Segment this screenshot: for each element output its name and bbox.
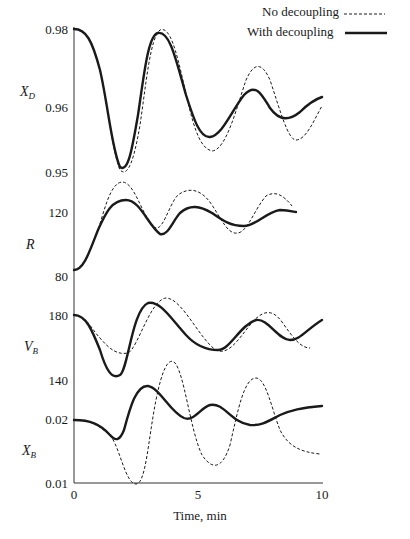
chart: No decoupling With decoupling 0.98 0.96 … xyxy=(0,0,410,539)
ytick-0.96: 0.96 xyxy=(45,100,68,115)
ylabel-vb: VB xyxy=(24,339,39,356)
series-no-decoupling-xb xyxy=(74,361,320,484)
ytick-80: 80 xyxy=(55,269,68,284)
legend-label-no-decoupling: No decoupling xyxy=(262,4,339,19)
series-with-decoupling-r xyxy=(74,200,296,270)
series-with-decoupling-vb xyxy=(74,303,322,377)
ytick-140: 140 xyxy=(49,373,69,388)
series-with-decoupling-xd xyxy=(74,29,322,168)
panel-vb: 180 140 VB xyxy=(24,298,322,388)
series-with-decoupling-xb xyxy=(74,386,322,439)
x-axis-label: Time, min xyxy=(173,508,227,523)
panel-xd: 0.98 0.96 0.95 XD xyxy=(19,22,322,180)
xtick-5: 5 xyxy=(195,487,202,502)
series-no-decoupling-vb xyxy=(74,298,310,353)
ylabel-r: R xyxy=(25,237,35,252)
panel-r: 120 80 R xyxy=(25,182,296,284)
ytick-120: 120 xyxy=(49,205,69,220)
ytick-0.98: 0.98 xyxy=(45,22,68,37)
ylabel-xd: XD xyxy=(19,84,36,101)
legend-label-with-decoupling: With decoupling xyxy=(247,24,334,39)
ytick-0.01: 0.01 xyxy=(45,476,68,491)
ytick-0.02: 0.02 xyxy=(45,412,68,427)
legend: No decoupling With decoupling xyxy=(247,4,387,39)
series-no-decoupling-xd xyxy=(74,29,322,172)
xtick-0: 0 xyxy=(71,487,78,502)
series-no-decoupling-r xyxy=(74,182,292,270)
ylabel-xb: XB xyxy=(21,443,37,460)
ytick-0.95: 0.95 xyxy=(45,165,68,180)
xtick-10: 10 xyxy=(316,487,329,502)
ytick-180: 180 xyxy=(49,308,69,323)
